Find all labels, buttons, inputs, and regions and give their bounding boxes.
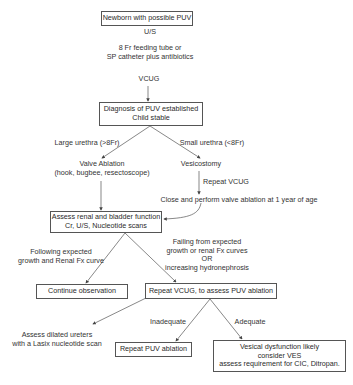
label-following-line2: growth and Renal Fx curve — [18, 257, 104, 266]
label-failing-line4: increasing hydronephrosis — [162, 264, 252, 273]
label-vcug: VCUG — [134, 75, 164, 84]
label-repeat-vcug-edge: Repeat VCUG — [203, 178, 249, 187]
node-newborn-text: Newborn with possible PUV — [103, 14, 192, 23]
label-failing: Failing from expected growth or renal Fx… — [162, 238, 252, 272]
node-repeat-vcug-text: Repeat VCUG, to assess PUV ablation — [149, 287, 273, 296]
label-inadequate: Inadequate — [148, 318, 188, 327]
label-vesicostomy: Vesicostomy — [178, 160, 224, 169]
label-feeding: 8 Fr feeding tube or SP catheter plus an… — [95, 44, 205, 61]
node-repeat-vcug: Repeat VCUG, to assess PUV ablation — [145, 283, 277, 299]
label-following: Following expected growth and Renal Fx c… — [18, 248, 104, 265]
node-continue-observation: Continue observation — [36, 284, 128, 299]
node-diagnosis-line2: Child stable — [132, 114, 170, 123]
node-repeat-ablation-text: Repeat PUV ablation — [120, 345, 187, 354]
label-assess-ureters-line2: with a Lasix nucleotide scan — [12, 340, 102, 349]
label-us: U/S — [138, 28, 162, 37]
node-diagnosis: Diagnosis of PUV established Child stabl… — [99, 102, 203, 126]
node-newborn: Newborn with possible PUV — [101, 11, 193, 26]
node-vesical-dysfunction: Vesical dysfunction likely consider VES … — [213, 340, 346, 372]
label-small-urethra: Small urethra (<8Fr) — [177, 139, 247, 148]
label-valve-ablation-line2: (hook, bugbee, resectoscope) — [50, 169, 154, 178]
node-repeat-ablation: Repeat PUV ablation — [115, 342, 192, 357]
label-assess-ureters: Assess dilated ureters with a Lasix nucl… — [12, 331, 102, 348]
node-continue-observation-text: Continue observation — [48, 287, 116, 296]
label-feeding-line2: SP catheter plus antibiotics — [95, 53, 205, 62]
label-close-perform: Close and perform valve ablation at 1 ye… — [154, 196, 324, 205]
node-assess-function: Assess renal and bladder function Cr, U/… — [50, 211, 162, 233]
label-large-urethra: Large urethra (>8Fr) — [52, 139, 122, 148]
label-adequate: Adequate — [232, 318, 268, 327]
node-vesical-line3: assess requirement for CIC, Ditropan. — [219, 360, 340, 369]
node-assess-function-line2: Cr, U/S, Nucleotide scans — [65, 222, 147, 231]
label-valve-ablation: Valve Ablation (hook, bugbee, resectosco… — [50, 160, 154, 177]
